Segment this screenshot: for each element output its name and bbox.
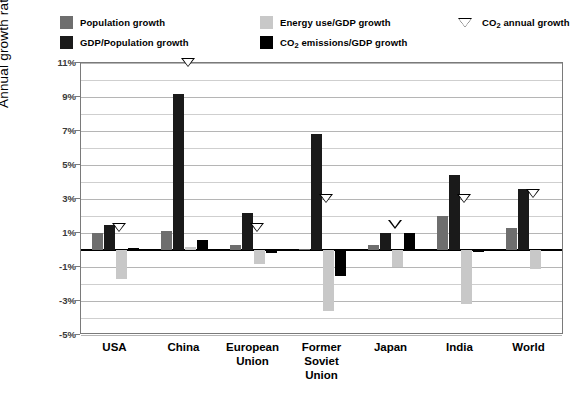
bar-gdp — [449, 175, 460, 250]
y-tick-label: -5% — [24, 329, 76, 340]
y-tick-mark — [75, 266, 80, 267]
bar-pop — [230, 245, 241, 250]
bar-ene — [323, 250, 334, 311]
bar-co2 — [542, 249, 553, 250]
gridline — [81, 335, 562, 336]
y-tick-mark — [75, 164, 80, 165]
legend-item-pop: Population growth — [60, 16, 165, 29]
bar-ene — [530, 250, 541, 269]
bar-ene — [116, 250, 127, 279]
bar-gdp — [518, 189, 529, 250]
y-axis-label: Annual growth rate — [0, 0, 11, 108]
bar-co2 — [266, 250, 277, 253]
x-tick-label-line: World — [484, 340, 573, 354]
y-tick-label: 3% — [24, 193, 76, 204]
x-tick-label-world: World — [484, 340, 573, 354]
bar-gdp — [173, 94, 184, 250]
legend-label-ene: Energy use/GDP growth — [280, 17, 391, 28]
legend-swatch-gdp — [60, 36, 73, 49]
legend-swatch-pop — [60, 16, 73, 29]
y-tick-label: 9% — [24, 91, 76, 102]
down-triangle-icon — [458, 16, 473, 29]
gridline — [81, 301, 562, 302]
bar-ene — [461, 250, 472, 304]
y-tick-mark — [75, 300, 80, 301]
gridline — [81, 284, 562, 285]
gridline — [81, 318, 562, 319]
y-tick-label: 7% — [24, 125, 76, 136]
bar-gdp — [380, 233, 391, 250]
y-tick-label: 11% — [24, 57, 76, 68]
bar-co2 — [335, 250, 346, 276]
legend-swatch-ene — [260, 16, 273, 29]
bar-co2 — [128, 248, 139, 250]
y-tick-mark — [75, 130, 80, 131]
legend-item-ene: Energy use/GDP growth — [260, 16, 391, 29]
y-tick-label: 5% — [24, 159, 76, 170]
legend-swatch-co2gdp — [260, 36, 273, 49]
x-tick-label-line: Soviet — [277, 354, 366, 368]
bar-pop — [506, 228, 517, 250]
gridline — [81, 131, 562, 132]
bar-pop — [92, 233, 103, 250]
gridline — [81, 97, 562, 98]
y-tick-mark — [75, 96, 80, 97]
plot-inner — [81, 63, 562, 333]
y-tick-mark — [75, 232, 80, 233]
y-tick-label: -3% — [24, 295, 76, 306]
gridline — [81, 114, 562, 115]
y-tick-mark — [75, 62, 80, 63]
bar-pop — [161, 231, 172, 250]
legend-label-pop: Population growth — [80, 17, 165, 28]
bar-ene — [254, 250, 265, 264]
bar-gdp — [311, 134, 322, 250]
gridline — [81, 80, 562, 81]
bar-pop — [437, 216, 448, 250]
legend-label-co2gdp: CO2 emissions/GDP growth — [280, 37, 407, 48]
gridline — [81, 63, 562, 64]
bar-ene — [392, 250, 403, 267]
bar-co2 — [197, 240, 208, 250]
gridline — [81, 267, 562, 268]
bar-ene — [185, 247, 196, 250]
bar-co2 — [404, 233, 415, 250]
y-tick-label: 1% — [24, 227, 76, 238]
chart-legend: Population growthGDP/Population growthEn… — [60, 16, 560, 56]
legend-item-co2gdp: CO2 emissions/GDP growth — [260, 36, 407, 49]
bar-pop — [299, 249, 310, 250]
y-tick-label: -1% — [24, 261, 76, 272]
bar-co2 — [473, 250, 484, 252]
bar-pop — [368, 245, 379, 250]
plot-area — [80, 62, 563, 334]
legend-label-co2ann: CO2 annual growth — [482, 17, 570, 28]
x-tick-label-line: Union — [277, 368, 366, 382]
y-tick-mark — [75, 198, 80, 199]
legend-label-gdp: GDP/Population growth — [80, 37, 189, 48]
legend-item-gdp: GDP/Population growth — [60, 36, 189, 49]
legend-item-co2ann: CO2 annual growth — [458, 16, 570, 29]
y-tick-mark — [75, 334, 80, 335]
